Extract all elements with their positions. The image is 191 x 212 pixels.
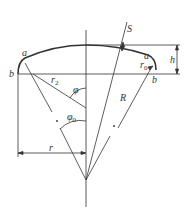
label-h: h xyxy=(170,54,175,65)
h-arrow-bottom xyxy=(176,69,179,74)
label-a-left: a xyxy=(22,47,27,58)
h-arrow-top xyxy=(176,45,179,50)
label-phi: φ xyxy=(73,84,79,95)
label-r2: r2 xyxy=(51,74,59,87)
r-arrow-left xyxy=(18,152,23,155)
label-b-left: b xyxy=(9,68,14,79)
label-r: r xyxy=(49,142,53,153)
r0-arrow xyxy=(148,66,153,70)
dished-head-diagram: S a a b b h r2 r0 φ φ0 R r xyxy=(0,0,191,212)
label-R: R xyxy=(119,92,126,103)
label-a-right: a xyxy=(144,50,149,61)
center-dot-right xyxy=(113,125,115,127)
label-S: S xyxy=(127,23,132,34)
R-radius-line-lower xyxy=(86,136,110,180)
center-dot-left xyxy=(56,120,58,122)
label-phi0: φ0 xyxy=(67,111,77,124)
label-b-right: b xyxy=(152,74,157,85)
head-profile xyxy=(18,45,156,74)
r-arrow-right xyxy=(81,152,86,155)
knuckle-line-left xyxy=(25,63,52,112)
